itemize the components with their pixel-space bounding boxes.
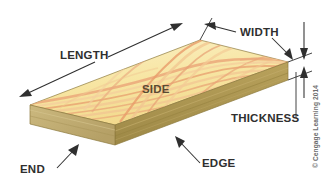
side-label: SIDE <box>142 83 170 95</box>
credit-block: © Cengage Learning 2014 <box>312 85 320 168</box>
length-leader-right <box>108 26 176 57</box>
thickness-arrow-upper-head <box>300 48 308 60</box>
width-leader-right <box>272 38 288 54</box>
width-leader-left <box>213 26 236 32</box>
thickness-witness-bottom <box>288 71 312 80</box>
edge-leader <box>180 142 200 163</box>
thickness-label: THICKNESS <box>231 112 299 124</box>
end-leader <box>57 150 74 168</box>
end-callout: END <box>20 144 79 175</box>
length-label: LENGTH <box>60 49 108 61</box>
length-arrow-left-head <box>19 89 32 97</box>
end-label: END <box>20 163 45 175</box>
width-label: WIDTH <box>240 26 279 38</box>
thickness-arrow-lower-head <box>300 66 308 78</box>
edge-callout: EDGE <box>175 136 236 169</box>
lumber-dimensions-diagram: LENGTH WIDTH THICKNESS <box>0 0 330 183</box>
credit-text: © Cengage Learning 2014 <box>312 85 320 168</box>
diagram-canvas: LENGTH WIDTH THICKNESS <box>0 0 330 183</box>
width-arrow-right-head <box>284 48 293 60</box>
length-arrow-right-head <box>170 23 183 31</box>
side-callout: SIDE <box>142 83 170 95</box>
edge-label: EDGE <box>202 157 236 169</box>
width-witness-left <box>200 18 212 40</box>
